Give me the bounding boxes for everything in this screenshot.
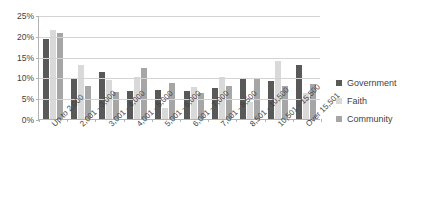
- legend-label: Community: [347, 114, 393, 124]
- y-tick-label: 10%: [17, 74, 34, 82]
- y-tick-label: 20%: [17, 33, 34, 41]
- legend-swatch-icon: [336, 98, 342, 104]
- bar: [57, 33, 63, 119]
- x-tick-mark: [321, 119, 322, 122]
- bar: [50, 30, 56, 119]
- bar-group: [39, 16, 67, 119]
- y-tick-label: 5%: [22, 95, 34, 103]
- legend-swatch-icon: [336, 116, 342, 122]
- gridline: [39, 78, 320, 79]
- legend-item[interactable]: Faith: [336, 92, 422, 110]
- legend-swatch-icon: [336, 80, 342, 86]
- y-axis: 0%5%10%15%20%25%: [0, 12, 36, 120]
- y-tick-label: 0%: [22, 116, 34, 124]
- y-tick-label: 15%: [17, 54, 34, 62]
- legend-item[interactable]: Community: [336, 110, 422, 128]
- gridline: [39, 16, 320, 17]
- y-tick-label: 25%: [17, 12, 34, 20]
- legend-label: Government: [347, 78, 397, 88]
- chart-legend: GovernmentFaithCommunity: [336, 74, 422, 128]
- gridline: [39, 58, 320, 59]
- legend-item[interactable]: Government: [336, 74, 422, 92]
- legend-label: Faith: [347, 96, 367, 106]
- gridline: [39, 37, 320, 38]
- x-axis: Up to 2,0002,001 - 3,0003,001 - 4,0004,0…: [38, 122, 320, 196]
- bar-chart: 0%5%10%15%20%25% Up to 2,0002,001 - 3,00…: [0, 0, 425, 198]
